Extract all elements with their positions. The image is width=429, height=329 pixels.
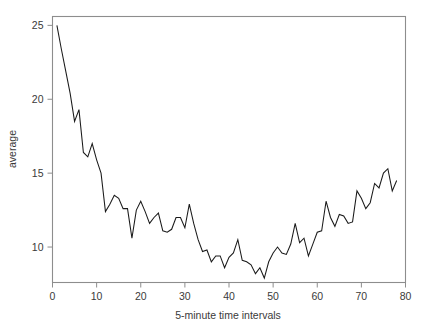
y-tick-label: 15 <box>32 167 44 179</box>
y-axis-title: average <box>6 130 18 168</box>
x-tick-label: 70 <box>356 290 368 302</box>
data-series-average <box>57 25 397 278</box>
y-tick-label: 20 <box>32 93 44 105</box>
y-axis-ticks: 10152025 <box>32 19 53 253</box>
x-tick-label: 80 <box>400 290 412 302</box>
x-tick-label: 40 <box>223 290 235 302</box>
x-axis-title: 5-minute time intervals <box>175 309 281 321</box>
y-tick-label: 25 <box>32 19 44 31</box>
x-tick-label: 60 <box>311 290 323 302</box>
line-chart: 10152025 01020304050607080 5-minute time… <box>0 0 429 329</box>
x-tick-label: 20 <box>135 290 147 302</box>
x-axis-ticks: 01020304050607080 <box>50 283 412 302</box>
chart-figure: 10152025 01020304050607080 5-minute time… <box>0 0 429 329</box>
x-tick-label: 10 <box>91 290 103 302</box>
plot-frame <box>53 17 406 283</box>
x-tick-label: 30 <box>179 290 191 302</box>
y-tick-label: 10 <box>32 241 44 253</box>
x-tick-label: 50 <box>267 290 279 302</box>
x-tick-label: 0 <box>50 290 56 302</box>
